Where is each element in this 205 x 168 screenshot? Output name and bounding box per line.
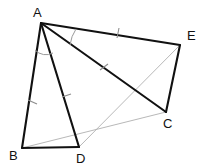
vertex-label-C: C [163,116,172,131]
vertex-label-E: E [187,28,196,43]
vertex-label-A: A [33,5,42,20]
auxiliary-segments-group [22,45,180,148]
vertex-labels-group: A B D C E [9,5,196,166]
geometry-figure: A B D C E [0,0,205,168]
geometry-canvas: A B D C E [0,0,205,168]
segment-AD [41,23,79,147]
segment-AB [22,23,41,148]
segment-AE [41,23,180,45]
segment-BC [22,112,166,148]
segment-EC [166,45,180,112]
segment-BD [22,147,79,148]
angle-arc-EAC [70,29,76,45]
vertex-label-B: B [9,148,18,163]
tick-marks-group [28,28,119,104]
vertex-label-D: D [76,151,85,166]
tick-mark-AE [117,28,119,38]
main-segments-group [22,23,180,148]
